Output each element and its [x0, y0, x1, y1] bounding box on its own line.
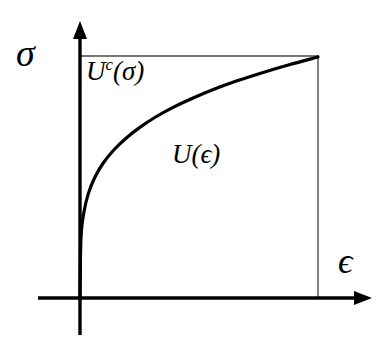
- complementary-energy-argument: (σ): [113, 56, 144, 86]
- x-axis-arrowhead: [354, 291, 372, 305]
- figure-canvas: [0, 0, 388, 353]
- y-axis-arrowhead: [73, 21, 87, 39]
- complementary-energy-superscript: c: [106, 55, 113, 74]
- sigma-axis-label: σ: [16, 34, 35, 72]
- stress-strain-curve: [80, 57, 318, 298]
- strain-energy-base: U: [172, 139, 192, 169]
- stress-strain-energy-figure: σ ϵ Uc(σ) U(ϵ): [0, 0, 388, 353]
- strain-energy-argument: (ϵ): [192, 139, 221, 169]
- strain-energy-label: U(ϵ): [172, 141, 220, 168]
- complementary-energy-base: U: [86, 56, 106, 86]
- complementary-energy-label: Uc(σ): [86, 57, 144, 85]
- epsilon-axis-label: ϵ: [338, 243, 353, 279]
